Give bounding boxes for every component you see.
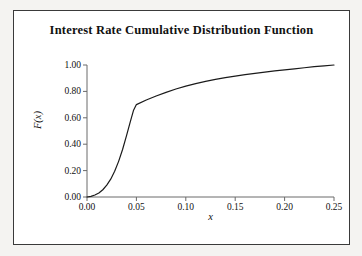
x-axis-label-text: x <box>208 211 213 222</box>
y-axis-tick-label: 0.60 <box>64 113 81 123</box>
axis-lines <box>87 65 334 197</box>
x-axis-tick-label: 0.20 <box>276 202 293 212</box>
plot-svg <box>87 65 334 197</box>
y-axis-label-text: F(x) <box>32 111 43 129</box>
x-axis-tick-label: 0.25 <box>326 202 343 212</box>
y-axis-tick-label: 0.00 <box>64 192 81 202</box>
y-axis-tick-label: 0.40 <box>64 139 81 149</box>
y-axis-ticks <box>83 65 87 197</box>
plot-area: 0.000.200.400.600.801.00 0.000.050.100.1… <box>87 65 334 197</box>
figure-frame: Interest Rate Cumulative Distribution Fu… <box>13 10 350 245</box>
x-axis-tick-label: 0.10 <box>177 202 194 212</box>
x-axis-label: x <box>87 211 334 222</box>
cdf-curve <box>87 65 334 197</box>
y-axis-tick-label: 1.00 <box>64 60 81 70</box>
x-axis-tick-label: 0.00 <box>79 202 96 212</box>
x-axis-tick-label: 0.15 <box>227 202 244 212</box>
y-axis-tick-label: 0.20 <box>64 166 81 176</box>
x-axis-ticks <box>87 197 334 201</box>
y-axis-tick-label: 0.80 <box>64 86 81 96</box>
y-axis-label: F(x) <box>32 111 43 129</box>
chart-title: Interest Rate Cumulative Distribution Fu… <box>14 23 349 38</box>
x-axis-tick-label: 0.05 <box>128 202 145 212</box>
